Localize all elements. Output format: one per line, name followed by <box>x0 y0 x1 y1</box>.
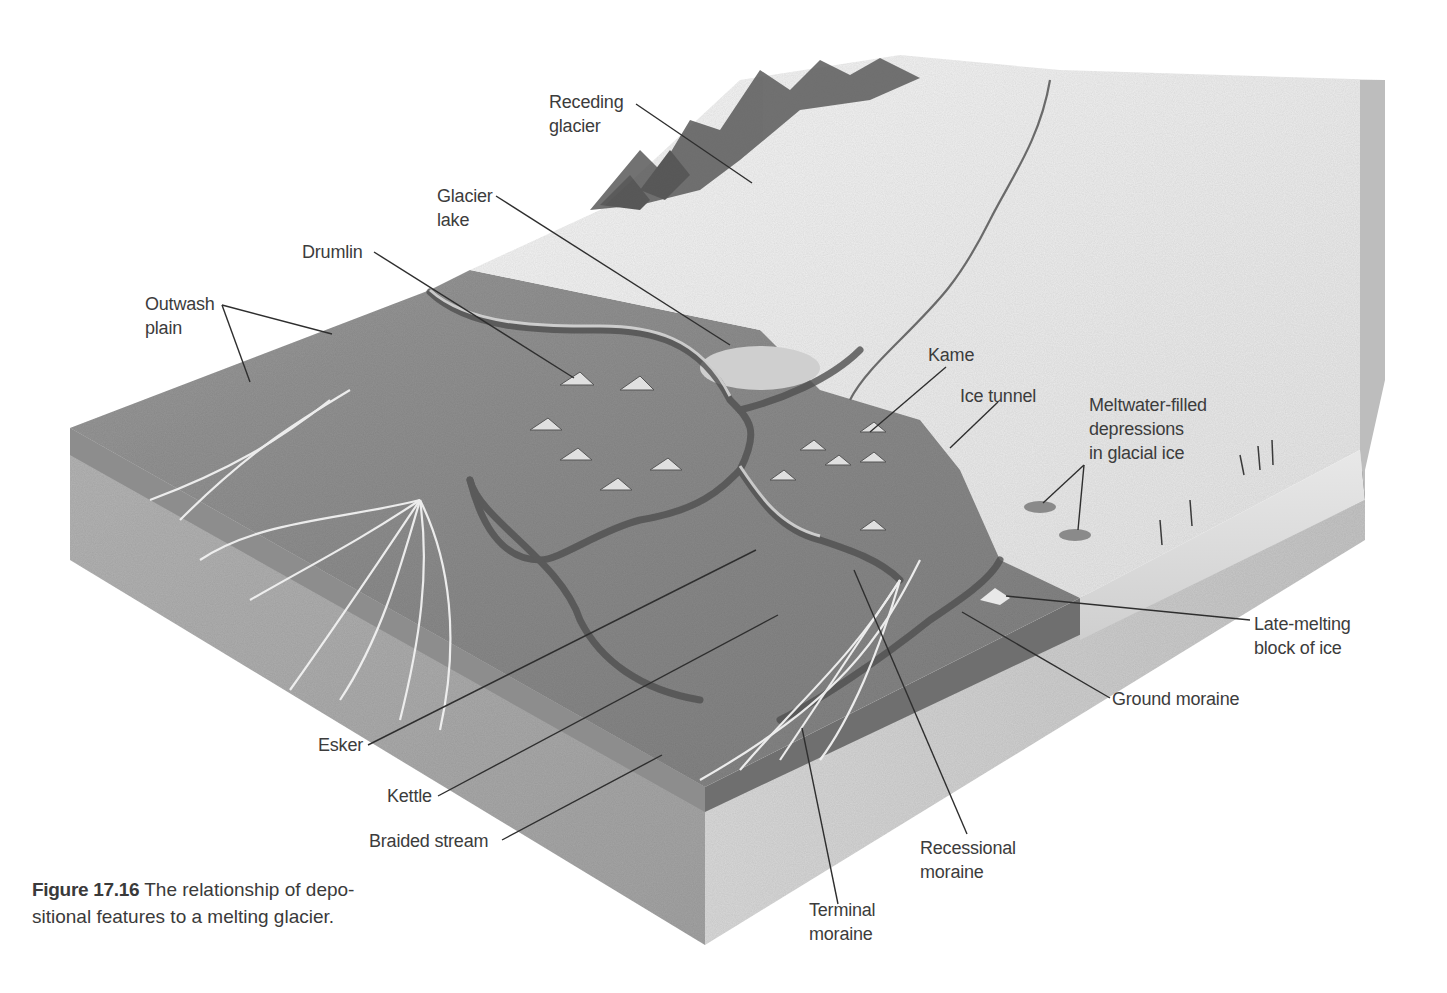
label-drumlin: Drumlin <box>302 240 363 264</box>
glacier-block-diagram <box>0 0 1447 993</box>
label-kettle: Kettle <box>387 784 432 808</box>
label-recessional-moraine: Recessional moraine <box>920 836 1016 884</box>
figure-number: Figure 17.16 <box>32 879 139 900</box>
label-esker: Esker <box>318 733 363 757</box>
label-glacier-lake: Glacier lake <box>437 184 493 232</box>
label-ground-moraine: Ground moraine <box>1112 687 1239 711</box>
glacier-ice-edge <box>1360 80 1385 500</box>
caption-line-1: Figure 17.16 The relationship of depo- <box>32 876 354 903</box>
label-braided-stream: Braided stream <box>369 829 488 853</box>
label-receding-glacier: Receding glacier <box>549 90 623 138</box>
label-meltwater-depressions: Meltwater-filled depressions in glacial … <box>1089 393 1207 465</box>
meltwater-depression <box>1024 501 1056 513</box>
label-outwash-plain: Outwash plain <box>145 292 215 340</box>
label-terminal-moraine: Terminal moraine <box>809 898 875 946</box>
label-ice-tunnel: Ice tunnel <box>960 384 1036 408</box>
label-kame: Kame <box>928 343 974 367</box>
label-late-melting-block: Late-melting block of ice <box>1254 612 1351 660</box>
caption-text-2: sitional features to a melting glacier. <box>32 903 354 930</box>
meltwater-depression <box>1059 529 1091 541</box>
figure-caption: Figure 17.16 The relationship of depo- s… <box>32 876 354 930</box>
caption-text-1: The relationship of depo- <box>144 879 354 900</box>
